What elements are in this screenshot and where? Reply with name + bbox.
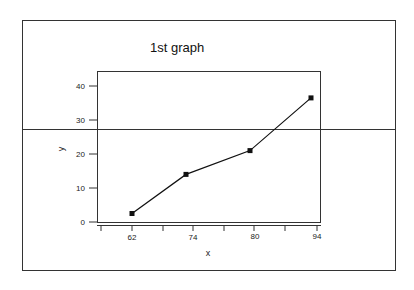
x-tick-labels: 62 74 80 94 [128,232,322,242]
y-axis-label: y [56,146,66,151]
y-tick-label: 0 [81,218,86,227]
figure-border [23,21,396,271]
x-tick-label: 94 [313,232,322,241]
data-point-marker [248,148,253,153]
outer-frame [23,21,396,130]
plot-area [98,72,321,223]
x-tick-label: 74 [189,233,198,242]
series-line [132,98,311,214]
data-series [130,95,314,216]
y-axis [89,86,97,222]
chart-title: 1st graph [150,40,204,55]
y-tick-labels: 40 30 20 10 0 [76,82,85,227]
chart-canvas: 1st graph 40 30 20 10 0 y 62 74 80 94 x [0,0,414,290]
data-point-marker [130,211,135,216]
x-axis [97,225,321,231]
x-tick-label: 80 [251,232,260,241]
y-tick-label: 40 [76,82,85,91]
y-tick-label: 20 [76,150,85,159]
y-tick-label: 30 [76,116,85,125]
data-point-marker [309,95,314,100]
x-axis-label: x [206,248,211,258]
data-point-marker [184,172,189,177]
x-tick-label: 62 [128,233,137,242]
y-tick-label: 10 [76,184,85,193]
